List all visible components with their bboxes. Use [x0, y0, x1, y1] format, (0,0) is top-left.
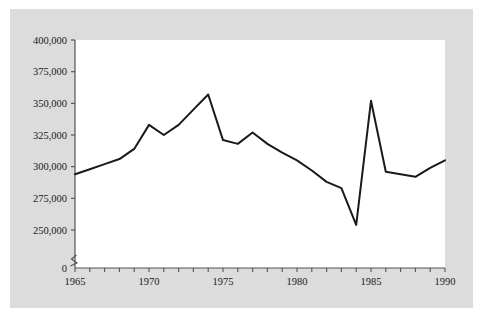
x-tick-label: 1985	[361, 276, 382, 287]
y-tick-label: 375,000	[33, 66, 67, 77]
line-chart: 250,000275,000300,000325,000350,000375,0…	[0, 0, 483, 317]
y-tick-label: 400,000	[33, 35, 67, 46]
y-tick-label: 350,000	[33, 98, 67, 109]
y-axis-zero-label: 0	[62, 263, 67, 274]
chart-figure: 250,000275,000300,000325,000350,000375,0…	[0, 0, 483, 317]
x-axis: 196519701975198019851990	[65, 268, 456, 287]
x-tick-label: 1970	[139, 276, 160, 287]
y-tick-label: 325,000	[33, 130, 67, 141]
x-tick-label: 1980	[287, 276, 308, 287]
x-tick-label: 1965	[65, 276, 86, 287]
y-axis: 250,000275,000300,000325,000350,000375,0…	[33, 35, 75, 274]
x-tick-label: 1975	[213, 276, 234, 287]
y-tick-label: 300,000	[33, 161, 67, 172]
y-tick-label: 250,000	[33, 225, 67, 236]
x-tick-label: 1990	[435, 276, 456, 287]
plot-area	[75, 40, 445, 268]
y-tick-label: 275,000	[33, 193, 67, 204]
